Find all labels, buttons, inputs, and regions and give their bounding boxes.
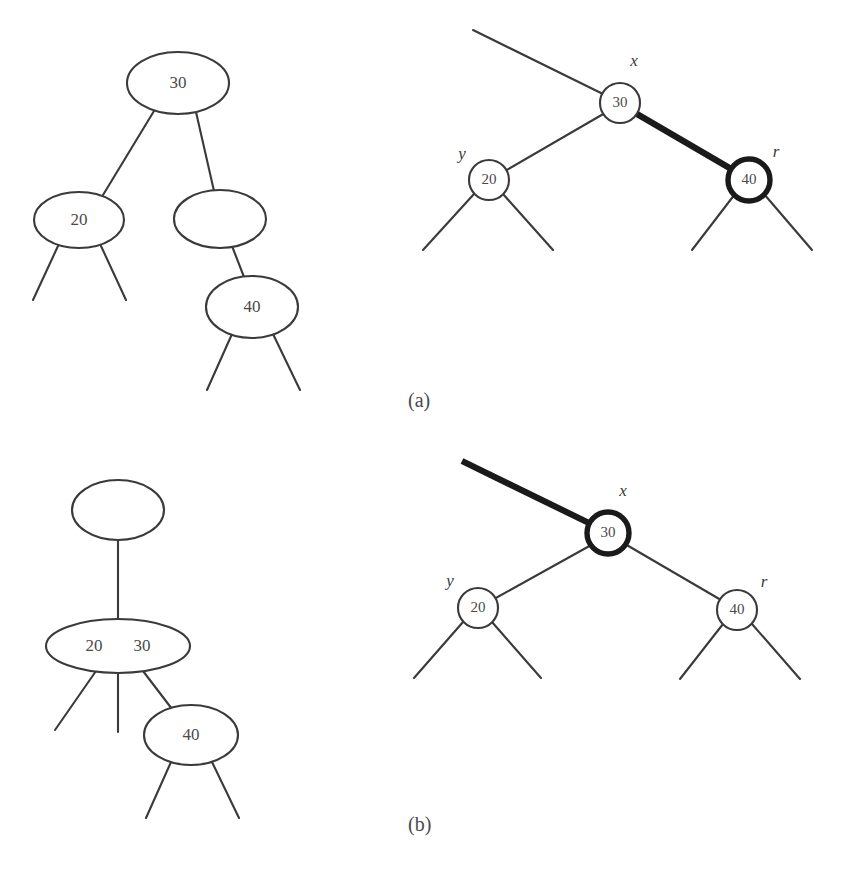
root-node-empty-shape[interactable] — [72, 480, 164, 540]
node-x-30-variable-label: x — [618, 481, 627, 500]
node-r-40-variable-label: r — [773, 142, 780, 161]
node-r-40-key: 40 — [742, 171, 757, 187]
root-node-30-key: 30 — [170, 73, 187, 92]
node-x-30-key: 30 — [601, 524, 616, 540]
tree-diagram-figure: 30204030x20y40r(a)20304030x20y40r(b) — [0, 0, 843, 869]
node-x-30-key: 30 — [613, 94, 628, 110]
node-x-30-variable-label: x — [629, 51, 638, 70]
node-y-20-variable-label: y — [444, 571, 454, 590]
node-r-40-variable-label: r — [761, 572, 768, 591]
node-40-key: 40 — [244, 297, 261, 316]
figure-container: 30204030x20y40r(a)20304030x20y40r(b) — [0, 0, 843, 869]
node-20-30-shape[interactable] — [46, 619, 190, 673]
node-40-key: 40 — [183, 725, 200, 744]
node-20-30-key-1: 30 — [134, 636, 151, 655]
node-20-30-key-0: 20 — [86, 636, 103, 655]
node-r-40-key: 40 — [730, 601, 745, 617]
node-y-20-key: 20 — [471, 599, 486, 615]
panel-caption-1: (b) — [408, 813, 431, 836]
node-empty-shape[interactable] — [174, 190, 266, 248]
figure-background — [0, 0, 843, 869]
panel-caption-0: (a) — [408, 389, 430, 412]
node-y-20-key: 20 — [482, 171, 497, 187]
node-y-20-variable-label: y — [456, 144, 466, 163]
node-20-key: 20 — [71, 210, 88, 229]
